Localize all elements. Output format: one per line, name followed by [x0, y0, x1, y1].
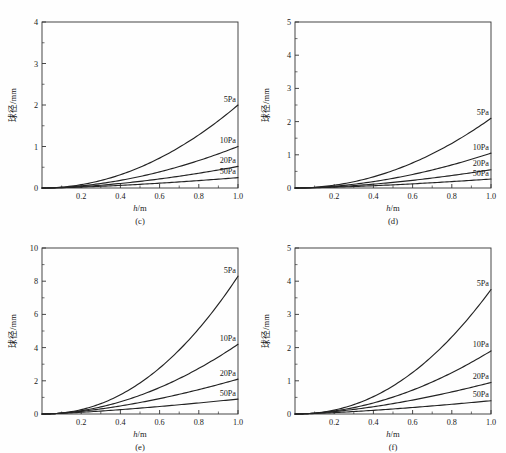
chart-panel-c: 012340.20.40.60.81.05Pa10Pa20Pa50Pa球径/mm…: [0, 0, 253, 226]
x-tick-label: 0.8: [194, 192, 204, 201]
figure-container: 012340.20.40.60.81.05Pa10Pa20Pa50Pa球径/mm…: [0, 0, 506, 453]
x-tick-label: 0.8: [447, 418, 457, 427]
series-label-10pa: 10Pa: [220, 334, 237, 343]
x-tick-label: 0.6: [407, 192, 417, 201]
series-label-10pa: 10Pa: [473, 143, 490, 152]
x-tick-label: 0.4: [115, 418, 125, 427]
x-tick-label: 0.4: [368, 192, 378, 201]
y-tick-label: 1: [287, 377, 291, 386]
y-tick-label: 4: [34, 344, 38, 353]
series-label-10pa: 10Pa: [473, 340, 490, 349]
y-tick-label: 2: [287, 118, 291, 127]
x-tick-label: 0.4: [115, 192, 125, 201]
chart-svg-e: 02468100.20.40.60.81.05Pa10Pa20Pa50Pa球径/…: [0, 226, 253, 452]
panel-caption: (e): [135, 442, 145, 452]
x-tick-label: 0.2: [76, 418, 86, 427]
x-tick-label: 1.0: [486, 192, 496, 201]
series-label-50pa: 50Pa: [473, 390, 490, 399]
series-label-5pa: 5Pa: [224, 266, 237, 275]
series-label-5pa: 5Pa: [477, 108, 490, 117]
y-axis-label: 球径/mm: [7, 314, 18, 348]
x-tick-label: 0.4: [368, 418, 378, 427]
y-tick-label: 0: [287, 410, 291, 419]
chart-svg-d: 0123450.20.40.60.81.05Pa10Pa20Pa50Pa球径/m…: [253, 0, 506, 226]
y-axis-label: 球径/mm: [7, 88, 18, 122]
series-label-20pa: 20Pa: [220, 369, 237, 378]
x-tick-label: 0.2: [329, 192, 339, 201]
x-axis-label: h/m: [386, 429, 400, 439]
series-label-5pa: 5Pa: [224, 95, 237, 104]
y-axis-label: 球径/mm: [260, 88, 271, 122]
series-curve-10pa: [42, 344, 238, 414]
y-tick-label: 4: [287, 277, 291, 286]
x-tick-label: 0.8: [194, 418, 204, 427]
series-label-50pa: 50Pa: [220, 389, 237, 398]
series-curve-10pa: [295, 351, 491, 414]
series-curve-5pa: [42, 276, 238, 414]
y-tick-label: 3: [287, 84, 291, 93]
y-tick-label: 8: [34, 277, 38, 286]
y-axis-label: 球径/mm: [260, 314, 271, 348]
plot-frame: [295, 22, 491, 188]
y-tick-label: 0: [34, 184, 38, 193]
y-tick-label: 4: [34, 18, 38, 27]
y-tick-label: 5: [287, 244, 291, 253]
y-tick-label: 10: [30, 244, 38, 253]
plot-frame: [42, 248, 238, 414]
x-tick-label: 1.0: [486, 418, 496, 427]
panel-caption: (d): [388, 216, 398, 226]
x-tick-label: 1.0: [233, 418, 243, 427]
x-tick-label: 0.2: [76, 192, 86, 201]
y-tick-label: 2: [287, 344, 291, 353]
y-tick-label: 2: [34, 101, 38, 110]
x-tick-label: 0.2: [329, 418, 339, 427]
panel-caption: (c): [135, 216, 145, 226]
x-tick-label: 0.6: [407, 418, 417, 427]
y-tick-label: 1: [34, 143, 38, 152]
x-tick-label: 0.8: [447, 192, 457, 201]
x-tick-label: 1.0: [233, 192, 243, 201]
series-label-20pa: 20Pa: [473, 159, 490, 168]
series-label-20pa: 20Pa: [473, 372, 490, 381]
y-tick-label: 4: [287, 51, 291, 60]
y-tick-label: 3: [287, 310, 291, 319]
y-tick-label: 0: [34, 410, 38, 419]
series-curve-5pa: [295, 290, 491, 415]
y-tick-label: 3: [34, 60, 38, 69]
x-tick-label: 0.6: [154, 192, 164, 201]
y-tick-label: 6: [34, 310, 38, 319]
chart-panel-d: 0123450.20.40.60.81.05Pa10Pa20Pa50Pa球径/m…: [253, 0, 506, 226]
x-axis-label: h/m: [133, 203, 147, 213]
y-tick-label: 1: [287, 151, 291, 160]
x-axis-label: h/m: [133, 429, 147, 439]
series-label-50pa: 50Pa: [220, 167, 237, 176]
series-curve-5pa: [295, 118, 491, 188]
x-tick-label: 0.6: [154, 418, 164, 427]
x-axis-label: h/m: [386, 203, 400, 213]
series-label-10pa: 10Pa: [220, 136, 237, 145]
y-tick-label: 5: [287, 18, 291, 27]
chart-svg-f: 0123450.20.40.60.81.05Pa10Pa20Pa50Pa球径/m…: [253, 226, 506, 452]
series-label-50pa: 50Pa: [473, 169, 490, 178]
series-curve-20pa: [42, 379, 238, 414]
series-label-20pa: 20Pa: [220, 156, 237, 165]
series-curve-5pa: [42, 105, 238, 188]
chart-svg-c: 012340.20.40.60.81.05Pa10Pa20Pa50Pa球径/mm…: [0, 0, 253, 226]
panel-caption: (f): [389, 442, 398, 452]
chart-panel-f: 0123450.20.40.60.81.05Pa10Pa20Pa50Pa球径/m…: [253, 226, 506, 452]
chart-panel-e: 02468100.20.40.60.81.05Pa10Pa20Pa50Pa球径/…: [0, 226, 253, 452]
y-tick-label: 2: [34, 377, 38, 386]
y-tick-label: 0: [287, 184, 291, 193]
series-label-5pa: 5Pa: [477, 279, 490, 288]
plot-frame: [42, 22, 238, 188]
